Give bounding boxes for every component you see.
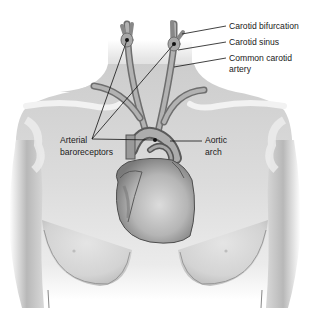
label-carotid-sinus: Carotid sinus <box>229 37 279 47</box>
label-aortic-line2: arch <box>205 147 222 157</box>
label-arterial-line1: Arterial <box>60 135 87 145</box>
heart <box>116 158 194 243</box>
label-arterial-line2: baroreceptors <box>60 147 113 157</box>
label-common-carotid-line1: Common carotid <box>229 53 292 63</box>
anatomy-diagram <box>0 0 310 322</box>
label-carotid-bifurcation: Carotid bifurcation <box>229 21 299 31</box>
label-common-carotid-line2: artery <box>229 64 251 74</box>
label-aortic-line1: Aortic <box>205 135 227 145</box>
